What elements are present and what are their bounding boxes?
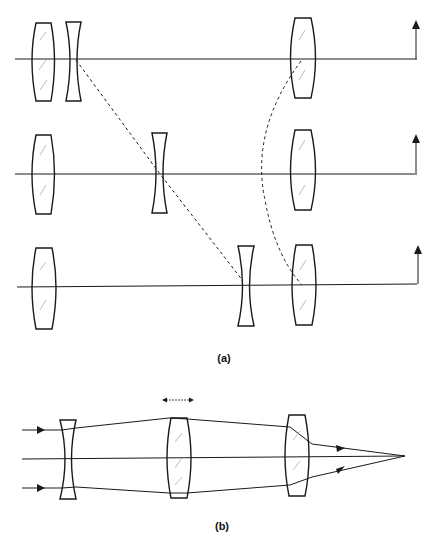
ray-arrow-icon <box>336 445 345 452</box>
lower-ray <box>22 456 405 493</box>
rear-positive-lens <box>291 130 316 210</box>
optical-axis <box>22 456 405 459</box>
front-positive-lens <box>32 248 56 329</box>
row-3 <box>17 245 422 329</box>
row-1 <box>15 18 420 101</box>
optical-axis <box>17 284 417 287</box>
caption-a: (a) <box>217 352 230 364</box>
negative-lens-path <box>76 60 243 281</box>
panel-b <box>22 398 405 500</box>
ray-arrow-icon <box>37 484 45 492</box>
row-2 <box>15 130 420 214</box>
rear-positive-lens <box>291 18 316 98</box>
caption-b: (b) <box>215 520 229 532</box>
compensator-path <box>262 61 302 285</box>
negative-lens <box>238 246 254 326</box>
front-positive-lens <box>32 23 55 101</box>
optics-diagram <box>0 0 438 542</box>
negative-lens <box>66 22 81 101</box>
ray-arrow-icon <box>37 426 45 434</box>
upper-ray <box>22 418 405 456</box>
